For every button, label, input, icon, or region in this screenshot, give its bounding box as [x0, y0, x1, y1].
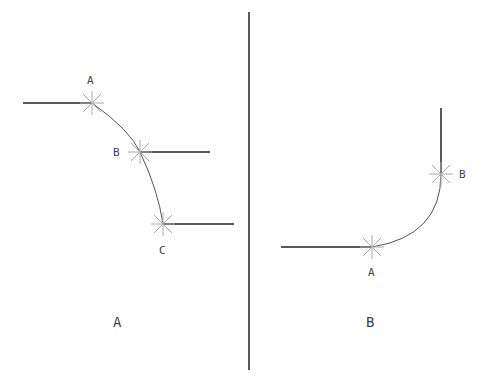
arc-abc [92, 103, 163, 224]
star-marker-icon [128, 140, 152, 164]
star-marker-icon [360, 235, 384, 259]
panel-a: A B C A [23, 74, 234, 330]
star-marker-icon [80, 91, 104, 115]
panel-caption-b: B [366, 314, 374, 330]
diagram-canvas: A B C A A B B [0, 0, 484, 387]
point-label-a: A [87, 74, 94, 87]
star-marker-icon [429, 162, 453, 186]
point-label-b: B [459, 168, 466, 181]
star-marker-icon [151, 212, 175, 236]
point-label-a: A [368, 266, 375, 279]
point-label-c: C [159, 244, 166, 257]
panel-b: A B B [281, 108, 466, 330]
point-label-b: B [113, 146, 120, 159]
arc-ab [372, 174, 441, 247]
panel-caption-a: A [113, 314, 122, 330]
